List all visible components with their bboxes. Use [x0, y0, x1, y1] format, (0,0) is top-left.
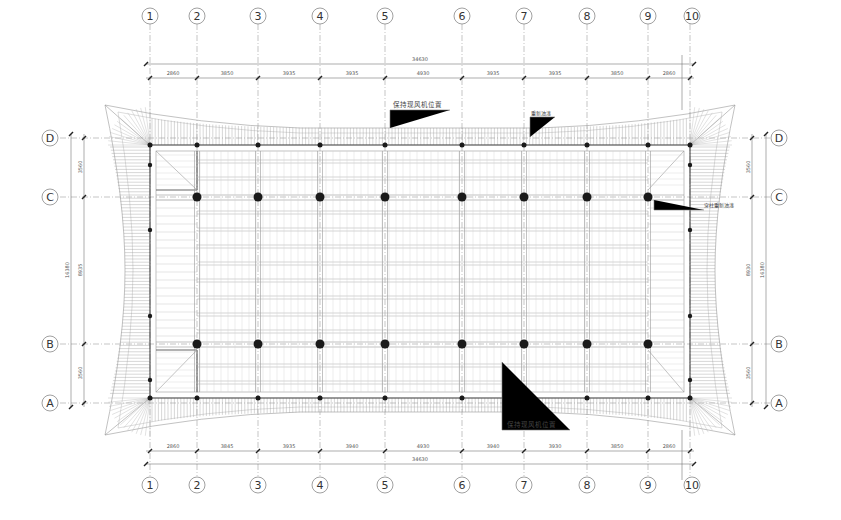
axis-bubble-D-left: D [46, 132, 54, 145]
axis-bubble-4-top: 4 [317, 10, 324, 23]
top-dim-6: 3935 [487, 70, 500, 76]
left-dim-3: 3560 [77, 367, 83, 380]
axis-bubble-8-bottom: 8 [584, 479, 591, 492]
top-dim-9: 2860 [663, 70, 676, 76]
axis-bubble-10-top: 10 [685, 10, 699, 23]
right-dim-2: 8930 [745, 264, 751, 277]
top-dimensions: 34630 2860 3850 3935 3935 4930 3935 3935… [167, 56, 676, 76]
eave-rafters-right [690, 147, 730, 393]
bottom-dimensions: 2860 3845 3935 3940 4930 3940 3930 3850 … [167, 443, 676, 462]
axis-bubble-3-top: 3 [255, 10, 262, 23]
axis-bubble-9-bottom: 9 [645, 479, 652, 492]
top-dim-8: 3850 [611, 70, 624, 76]
top-dim-4: 3935 [346, 70, 359, 76]
bottom-dim-5: 4930 [417, 443, 430, 449]
bottom-overall-dimension: 34630 [412, 456, 428, 462]
right-dim-3: 3560 [745, 367, 751, 380]
axis-bubble-3-bottom: 3 [255, 479, 262, 492]
axis-bubble-7-top: 7 [521, 10, 528, 23]
left-dim-2: 8935 [77, 264, 83, 277]
top-dim-1: 2860 [167, 70, 180, 76]
fan-position-note-top: 保持现风机位置 [393, 100, 442, 109]
left-dimensions: 16380 3560 8935 3560 [64, 161, 83, 380]
right-overall-dimension: 16380 [759, 262, 765, 278]
top-dim-7: 3935 [549, 70, 562, 76]
axis-bubble-5-bottom: 5 [382, 479, 389, 492]
axis-bubble-2-top: 2 [194, 10, 201, 23]
right-dim-1: 3560 [745, 161, 751, 174]
eave-rafters-top [108, 107, 732, 436]
bottom-dim-6: 3940 [487, 443, 500, 449]
top-dim-5: 4930 [417, 70, 430, 76]
bottom-dim-9: 2860 [663, 443, 676, 449]
axis-bubble-A-right: A [775, 397, 783, 410]
column-axis-bubbles-bottom: 1 2 3 4 5 6 7 8 9 10 [142, 477, 700, 493]
bottom-dim-2: 3845 [221, 443, 234, 449]
row-axis-bubbles-right: D C B A [771, 130, 787, 411]
roof-purlins-and-battens [156, 151, 684, 392]
axis-bubble-2-bottom: 2 [194, 479, 201, 492]
bottom-dim-7: 3930 [549, 443, 562, 449]
axis-bubble-B-left: B [46, 338, 54, 351]
eave-rafters-left [110, 147, 150, 393]
roof-framing-plan: 34630 2860 3850 3935 3935 4930 3935 3935… [0, 0, 841, 520]
axis-bubble-1-top: 1 [147, 10, 154, 23]
column-axis-bubbles-top: 1 2 3 4 5 6 7 8 9 10 [142, 8, 700, 24]
axis-bubble-C-right: C [775, 191, 783, 204]
axis-bubble-C-left: C [46, 191, 54, 204]
axis-bubble-6-bottom: 6 [459, 479, 466, 492]
top-dim-3: 3935 [283, 70, 296, 76]
top-dim-2: 3850 [221, 70, 234, 76]
row-axis-bubbles-left: D C B A [42, 130, 58, 411]
axis-bubble-D-right: D [775, 132, 783, 145]
eave-rafters-bottom [152, 398, 686, 422]
bottom-dim-8: 3850 [611, 443, 624, 449]
left-dim-1: 3560 [77, 161, 83, 174]
roof-frame [150, 145, 690, 398]
axis-bubble-7-bottom: 7 [521, 479, 528, 492]
axis-bubble-5-top: 5 [382, 10, 389, 23]
fan-position-note-bottom: 保持现风机位置 [507, 420, 556, 429]
right-dimensions: 3560 8930 3560 16380 [745, 161, 765, 380]
axis-bubble-1-bottom: 1 [147, 479, 154, 492]
axis-bubble-4-bottom: 4 [317, 479, 324, 492]
axis-bubble-6-top: 6 [459, 10, 466, 23]
axis-bubble-9-top: 9 [645, 10, 652, 23]
column-repaint-note: 穿柱重新油漆 [704, 202, 734, 209]
axis-bubble-8-top: 8 [584, 10, 591, 23]
left-overall-dimension: 16380 [64, 262, 70, 278]
bottom-dim-4: 3940 [346, 443, 359, 449]
axis-bubble-10-bottom: 10 [685, 479, 699, 492]
axis-bubble-B-right: B [775, 338, 783, 351]
bottom-dim-1: 2860 [167, 443, 180, 449]
repaint-note-top: 重新油漆 [531, 110, 551, 117]
bottom-dim-3: 3935 [283, 443, 296, 449]
columns [148, 143, 693, 401]
top-overall-dimension: 34630 [412, 56, 428, 62]
axis-bubble-A-left: A [46, 397, 54, 410]
